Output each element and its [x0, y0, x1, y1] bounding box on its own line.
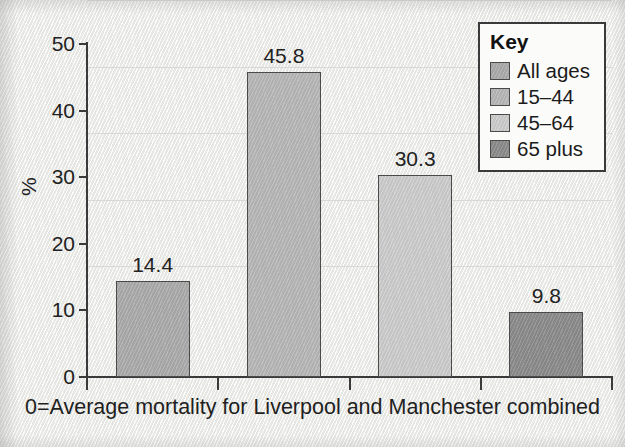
- y-axis-title: %: [18, 177, 39, 196]
- bar: [116, 281, 190, 377]
- bar: [509, 312, 583, 377]
- x-tick: [349, 377, 351, 390]
- x-tick: [217, 377, 219, 390]
- y-tick-label: 40: [31, 100, 75, 121]
- legend-item: 45–64: [490, 110, 596, 136]
- x-tick: [86, 377, 88, 390]
- legend-item: 65 plus: [490, 136, 596, 162]
- x-tick: [611, 377, 613, 390]
- legend-item-label: All ages: [517, 60, 590, 82]
- legend-item: 15–44: [490, 84, 596, 110]
- legend-swatch: [490, 88, 510, 106]
- bar-value-label: 30.3: [355, 148, 475, 169]
- bar: [378, 175, 452, 377]
- legend-item-label: 15–44: [517, 86, 574, 108]
- legend-box: Key All ages15–4445–6465 plus: [478, 22, 606, 172]
- bar-value-label: 9.8: [486, 285, 606, 306]
- x-axis-caption: 0=Average mortality for Liverpool and Ma…: [0, 395, 625, 419]
- legend-items: All ages15–4445–6465 plus: [490, 58, 596, 162]
- gridline: [87, 0, 612, 1]
- legend-swatch: [490, 140, 510, 158]
- y-tick-label: 50: [31, 33, 75, 54]
- y-tick-label: 20: [31, 233, 75, 254]
- legend-item-label: 45–64: [517, 112, 574, 134]
- legend-item-label: 65 plus: [517, 138, 583, 160]
- legend-swatch: [490, 114, 510, 132]
- bar-value-label: 14.4: [93, 254, 213, 275]
- legend-title: Key: [490, 30, 596, 54]
- y-tick-label: 10: [31, 299, 75, 320]
- y-tick-label: 0: [31, 366, 75, 387]
- legend-item: All ages: [490, 58, 596, 84]
- bar-value-label: 45.8: [224, 45, 344, 66]
- bar-chart-figure: 01020304050 14.445.830.39.8 % 0=Average …: [0, 0, 625, 447]
- legend-swatch: [490, 62, 510, 80]
- bar: [247, 72, 321, 377]
- x-tick: [480, 377, 482, 390]
